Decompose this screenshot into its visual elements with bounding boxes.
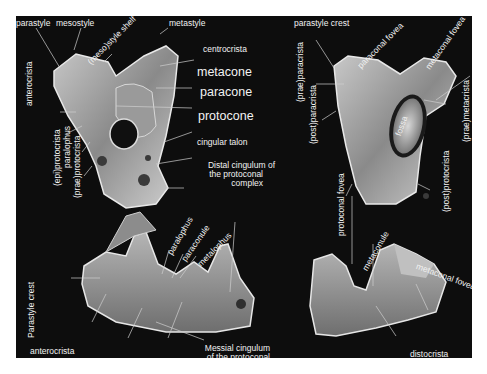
- label-anterocrista-oblique: anterocrista: [30, 347, 74, 356]
- label-parastyle-crest: parastyle crest: [294, 19, 349, 28]
- label-protocone: protocone: [198, 110, 254, 123]
- label-centrocrista: centrocrista: [203, 45, 247, 54]
- tooth-oblique-right: [310, 244, 446, 336]
- label-metastyle: metastyle: [169, 19, 205, 28]
- label-messial-cingulum: Messial cingulum of the protoconal compl…: [186, 344, 270, 358]
- label-paralophus: paralophus: [63, 126, 72, 168]
- label-post-protocrista: (post)protocrista: [442, 151, 451, 212]
- label-protoconal-fovea: protoconal fovea: [337, 173, 346, 236]
- label-prae-metacrista: (prae)metacrista: [462, 80, 471, 142]
- label-parastyle-crest-oblique: Parastyle crest: [27, 282, 36, 338]
- figure-panel: parastyle mesostyle (meso)style shelf me…: [16, 16, 472, 358]
- label-cingular-talon: cingular talon: [197, 138, 248, 147]
- label-anterocrista: anterocrista: [25, 62, 34, 106]
- label-post-paracrista: (post)paracrista: [309, 85, 318, 144]
- label-messial-cingulum-line2: of the protoconal: [186, 353, 270, 358]
- label-paracone: paracone: [200, 86, 252, 99]
- label-distocrista: distocrista: [410, 350, 448, 358]
- label-distal-cingulum: Distal cingulum of the protoconal comple…: [185, 161, 275, 188]
- label-prae-paracrista: (prae)paracrista: [296, 42, 305, 102]
- label-parastyle: parastyle: [16, 19, 51, 28]
- label-mesostyle: mesostyle: [56, 19, 94, 28]
- label-distal-cingulum-line3: complex: [185, 179, 275, 188]
- tooth-oblique-left: [82, 212, 254, 332]
- label-metacone: metacone: [197, 66, 252, 79]
- label-prae-protocrista: (prae)protocrista: [73, 136, 82, 198]
- label-epi-protocrista: (epi)protocrista: [53, 129, 62, 186]
